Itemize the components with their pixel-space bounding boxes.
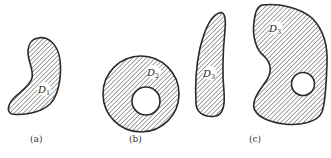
region-diagram: D1 (a) D2 (b) D3 D3 (c) bbox=[0, 0, 331, 158]
hole bbox=[292, 73, 315, 96]
caption-b: (b) bbox=[129, 134, 142, 144]
panel-a: D1 (a) bbox=[8, 38, 60, 144]
panel-c: D3 D3 (c) bbox=[196, 5, 327, 144]
region-d3-right-shape bbox=[253, 5, 327, 125]
panel-b: D2 (b) bbox=[103, 56, 179, 144]
caption-a: (a) bbox=[30, 134, 42, 144]
region-d1-shape bbox=[8, 38, 60, 115]
hole bbox=[132, 87, 160, 115]
caption-c: (c) bbox=[249, 134, 261, 144]
region-d3-left-shape bbox=[196, 13, 226, 117]
